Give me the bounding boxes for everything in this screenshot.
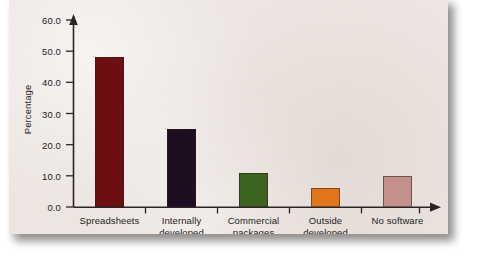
x-category-line: No software — [358, 215, 438, 227]
x-category-label-commercial-packages: Commercial packages — [214, 215, 294, 234]
y-tick-label: 30.0 — [17, 109, 61, 120]
plot-area: Percentage 0.0 10.0 20.0 30.0 40.0 50.0 … — [9, 0, 448, 234]
x-category-label-outside-developed: Outside developed — [286, 215, 366, 234]
bar-no-software — [383, 176, 412, 207]
x-category-line: developed — [142, 227, 222, 235]
x-category-label-internally-developed: Internally developed — [142, 215, 222, 234]
y-tick-label: 10.0 — [17, 171, 61, 182]
bar-spreadsheets — [95, 57, 124, 207]
figure-root: Percentage 0.0 10.0 20.0 30.0 40.0 50.0 … — [0, 0, 495, 263]
y-tick-label: 0.0 — [17, 202, 61, 213]
y-tick-label: 50.0 — [17, 46, 61, 57]
y-tick-label: 60.0 — [17, 15, 61, 26]
bar-internally-developed — [167, 129, 196, 207]
x-category-line: developed — [286, 227, 366, 235]
x-category-line: Outside — [286, 215, 366, 227]
x-category-line: packages — [214, 227, 294, 235]
bar-chart-panel: Percentage 0.0 10.0 20.0 30.0 40.0 50.0 … — [9, 0, 448, 234]
x-category-line: Spreadsheets — [70, 215, 150, 227]
x-category-label-spreadsheets: Spreadsheets — [70, 215, 150, 227]
x-category-label-no-software: No software — [358, 215, 438, 227]
x-category-line: Internally — [142, 215, 222, 227]
bar-outside-developed — [311, 188, 340, 207]
y-tick-label: 20.0 — [17, 140, 61, 151]
bar-commercial-packages — [239, 173, 268, 207]
x-category-line: Commercial — [214, 215, 294, 227]
y-tick-label: 40.0 — [17, 77, 61, 88]
